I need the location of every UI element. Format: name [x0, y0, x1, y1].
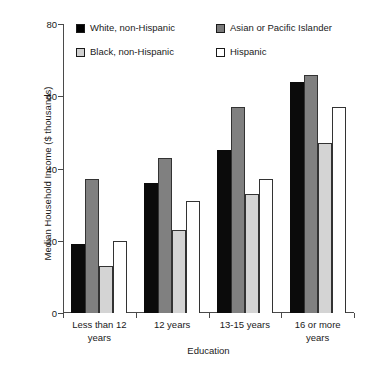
chart-figure: White, non-Hispanic Asian or Pacific Isl…: [0, 0, 366, 369]
bar: [332, 107, 346, 313]
bar: [231, 107, 245, 313]
x-tick-labels: Less than 12years12 years13-15 years16 o…: [63, 318, 354, 344]
bar: [217, 150, 231, 313]
x-axis-title: Education: [63, 345, 354, 356]
bar: [85, 179, 99, 313]
y-tick-label: 0: [17, 308, 57, 319]
x-tick: [354, 313, 355, 318]
bar: [99, 266, 113, 313]
bar-group: [136, 24, 209, 313]
x-tick-label: Less than 12years: [63, 318, 136, 344]
bar-group: [209, 24, 282, 313]
x-tick-label: 16 or moreyears: [281, 318, 354, 344]
bar: [144, 183, 158, 313]
y-tick-label: 80: [17, 19, 57, 30]
plot-area: 020406080: [63, 24, 354, 313]
bar-set: [71, 24, 127, 313]
bar-groups: [63, 24, 354, 313]
bar: [259, 179, 273, 313]
bar: [245, 194, 259, 313]
bar: [158, 158, 172, 313]
bar: [304, 75, 318, 313]
bar: [172, 230, 186, 313]
bar: [71, 244, 85, 313]
bar: [186, 201, 200, 313]
y-tick-label: 40: [17, 163, 57, 174]
y-tick-label: 20: [17, 235, 57, 246]
x-tick-label: 12 years: [136, 318, 209, 344]
bar: [318, 143, 332, 313]
bar-group: [281, 24, 354, 313]
bar-set: [290, 24, 346, 313]
bar: [113, 241, 127, 313]
y-tick-label: 60: [17, 91, 57, 102]
bar-set: [144, 24, 200, 313]
bar: [290, 82, 304, 313]
x-tick-label: 13-15 years: [209, 318, 282, 344]
bar-set: [217, 24, 273, 313]
bar-group: [63, 24, 136, 313]
